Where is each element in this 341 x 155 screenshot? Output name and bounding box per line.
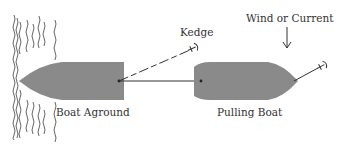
- kedging-diagram: Kedge Wind or Current Boat Aground Pulli…: [0, 0, 341, 155]
- boat-aground-hull: [19, 62, 124, 100]
- kedge-rode: [119, 50, 190, 81]
- pulling-boat-label: Pulling Boat: [217, 106, 282, 118]
- pulling-boat-hull: [194, 62, 298, 100]
- kedge-label: Kedge: [180, 26, 213, 38]
- pulling-boat-anchor-icon: [315, 60, 328, 72]
- wind-current-arrow-icon: [283, 27, 291, 48]
- pulling-boat-rode: [294, 68, 318, 81]
- wind-or-current-label: Wind or Current: [246, 12, 334, 24]
- kedge-anchor-icon: [187, 42, 199, 53]
- boat-aground-label: Boat Aground: [56, 106, 130, 118]
